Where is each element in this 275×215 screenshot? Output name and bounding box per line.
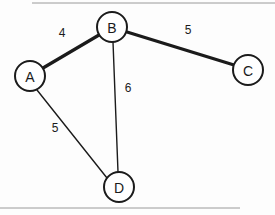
edge-weight-a-b: 4 [59, 26, 66, 40]
node-d-label: D [114, 180, 124, 196]
edge-weight-b-c: 5 [185, 23, 192, 37]
graph-svg: 4 5 6 5 A B C D [0, 0, 275, 215]
node-a[interactable]: A [15, 61, 45, 91]
node-b[interactable]: B [97, 12, 127, 42]
node-b-label: B [107, 20, 116, 36]
node-a-label: A [25, 69, 35, 85]
edge-a-d[interactable] [37, 90, 107, 178]
edge-b-d[interactable] [113, 42, 118, 172]
edge-weight-a-d: 5 [52, 121, 59, 135]
edge-weight-group: 4 5 6 5 [52, 23, 192, 135]
node-c[interactable]: C [233, 55, 263, 85]
edge-weight-b-d: 6 [125, 81, 132, 95]
edge-group [37, 32, 234, 178]
edge-a-b[interactable] [43, 35, 99, 68]
edge-b-c[interactable] [127, 32, 234, 65]
node-c-label: C [243, 63, 253, 79]
graph-diagram-canvas: 4 5 6 5 A B C D [0, 0, 275, 215]
node-d[interactable]: D [104, 172, 134, 202]
node-group: A B C D [15, 12, 263, 202]
